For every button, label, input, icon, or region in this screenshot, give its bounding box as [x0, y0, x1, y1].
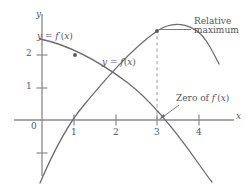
f-curve-label: y = f(x) — [102, 58, 136, 67]
zero-of-f-prime-arrow — [159, 105, 179, 120]
zero-of-f-prime-annotation: Zero of f′(x) — [176, 94, 229, 103]
f-prime-curve-label: y = f′(x) — [37, 32, 73, 41]
point-on-derivative — [73, 53, 77, 57]
relative-maximum-annotation: Relative maximum — [194, 17, 239, 36]
graph-figure: y x 0 2 1 1 2 3 4 y = f′(x) y = f(x) Rel… — [0, 0, 246, 187]
relative-maximum-line-2: maximum — [194, 26, 239, 35]
x-tick-label-1: 1 — [71, 128, 77, 137]
x-tick-label-4: 4 — [196, 128, 202, 137]
x-tick-label-2: 2 — [113, 128, 119, 137]
y-tick-label-2: 2 — [26, 49, 32, 58]
x-axis-label: x — [236, 112, 241, 121]
y-axis-label: y — [36, 10, 41, 19]
y-tick-label-1: 1 — [26, 82, 32, 91]
f-curve — [40, 24, 219, 183]
x-tick-label-3: 3 — [154, 128, 160, 137]
origin-label: 0 — [31, 122, 37, 131]
point-at-maximum — [155, 29, 159, 33]
